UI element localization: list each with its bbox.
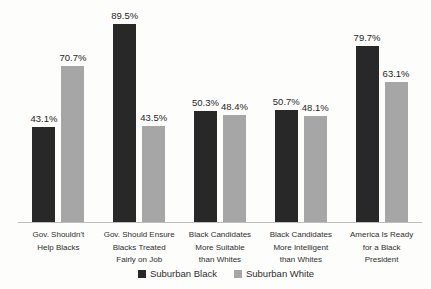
bar-group-2: 89.5%43.5% (99, 0, 180, 222)
data-label: 63.1% (383, 68, 410, 79)
data-label: 43.5% (140, 112, 167, 123)
category-label-1: Gov. Shouldn't Help Blacks (18, 229, 99, 267)
category-axis-labels: Gov. Shouldn't Help BlacksGov. Should En… (18, 229, 422, 267)
legend-label-suburban-black: Suburban Black (150, 268, 217, 279)
bar-suburban-white: 48.4% (223, 115, 246, 222)
legend-swatch-suburban-white (234, 270, 242, 278)
bar-suburban-white: 43.5% (142, 126, 165, 222)
data-label: 50.7% (273, 96, 300, 107)
category-label-4: Black Candidates More Intelligent than W… (260, 229, 341, 267)
bar-group-1: 43.1%70.7% (18, 0, 99, 222)
data-label: 50.3% (192, 97, 219, 108)
bar-suburban-white: 70.7% (61, 66, 84, 222)
category-label-3: Black Candidates More Suitable than Whit… (180, 229, 261, 267)
legend-item-suburban-black: Suburban Black (138, 268, 217, 279)
category-label-5: America Is Ready for a Black President (341, 229, 422, 267)
data-label: 43.1% (30, 113, 57, 124)
bar-suburban-black: 50.3% (194, 111, 217, 222)
legend-item-suburban-white: Suburban White (234, 268, 314, 279)
chart-legend: Suburban Black Suburban White (0, 268, 431, 279)
legend-label-suburban-white: Suburban White (246, 268, 314, 279)
bar-suburban-black: 43.1% (32, 127, 55, 222)
bar-group-3: 50.3%48.4% (180, 0, 261, 222)
data-label: 70.7% (59, 52, 86, 63)
data-label: 79.7% (354, 32, 381, 43)
bar-suburban-white: 48.1% (304, 116, 327, 222)
bar-suburban-black: 89.5% (113, 24, 136, 222)
legend-swatch-suburban-black (138, 270, 146, 278)
data-label: 48.4% (221, 101, 248, 112)
plot-area: 43.1%70.7%89.5%43.5%50.3%48.4%50.7%48.1%… (18, 0, 422, 223)
bar-suburban-white: 63.1% (385, 82, 408, 222)
data-label: 89.5% (111, 10, 138, 21)
bar-suburban-black: 50.7% (275, 110, 298, 222)
category-label-2: Gov. Should Ensure Blacks Treated Fairly… (99, 229, 180, 267)
bar-group-5: 79.7%63.1% (341, 0, 422, 222)
bar-suburban-black: 79.7% (356, 46, 379, 222)
scanned-chart-page: 43.1%70.7%89.5%43.5%50.3%48.4%50.7%48.1%… (0, 0, 431, 289)
bar-group-4: 50.7%48.1% (260, 0, 341, 222)
data-label: 48.1% (302, 102, 329, 113)
